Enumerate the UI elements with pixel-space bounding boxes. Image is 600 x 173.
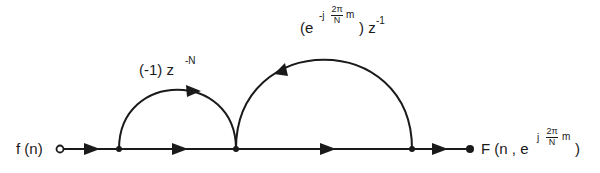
- input-label: f (n): [16, 140, 43, 157]
- sum-node-2: [233, 146, 239, 152]
- feedback-gain-exp-suffix: m: [346, 9, 354, 20]
- output-fraction: 2π N: [545, 127, 559, 147]
- feedback-gain-open: (e: [300, 19, 313, 36]
- output-exp-prefix: j: [537, 132, 539, 143]
- output-exp-suffix: m: [562, 131, 570, 142]
- fraction-denominator: N: [334, 15, 341, 25]
- feedforward-gain-label: (-1) z: [139, 61, 174, 78]
- feedback-gain-fraction: 2π N: [330, 5, 344, 25]
- feedforward-gain-base: (-1) z: [139, 61, 174, 78]
- feedback-arc: [236, 60, 412, 149]
- feedback-gain-close: ) z: [359, 19, 376, 36]
- arrow-right-icon: [320, 143, 336, 155]
- branch-node-3: [409, 146, 415, 152]
- output-label-suffix: ): [575, 140, 580, 157]
- arrow-left-icon: [274, 63, 288, 76]
- arrow-right-icon: [432, 143, 448, 155]
- fraction-numerator: 2π: [331, 4, 342, 14]
- feedforward-gain-exponent: -N: [185, 55, 196, 66]
- arrow-right-icon: [84, 143, 100, 155]
- fraction-numerator: 2π: [546, 126, 557, 136]
- output-label-prefix: F (n , e: [481, 140, 529, 157]
- output-node-icon: [466, 145, 474, 153]
- feedback-gain-exp-prefix: -j: [319, 10, 325, 21]
- arrow-right-icon: [172, 143, 188, 155]
- feedforward-arc: [119, 90, 236, 149]
- fraction-denominator: N: [549, 137, 556, 147]
- feedback-gain-z-exponent: -1: [376, 15, 385, 26]
- branch-node-1: [116, 146, 122, 152]
- input-node-icon: [57, 146, 64, 153]
- arrow-right-icon: [186, 85, 201, 97]
